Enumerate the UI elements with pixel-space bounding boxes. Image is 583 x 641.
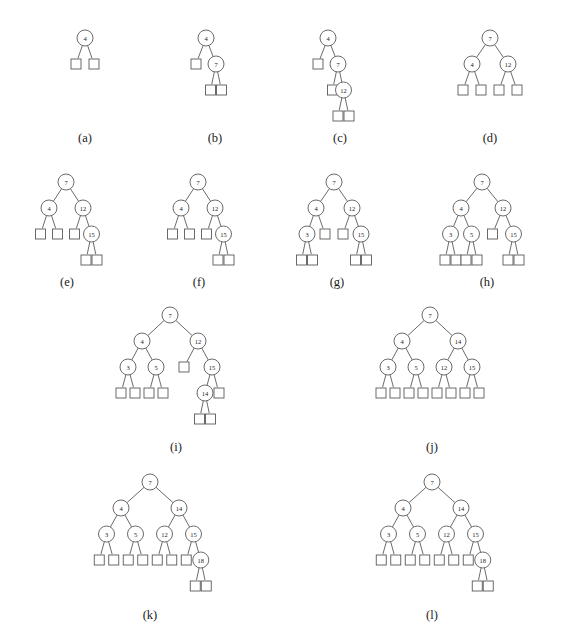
tree-edge [53, 189, 61, 202]
tree-node: 12 [436, 359, 452, 375]
tree-edge [198, 45, 203, 58]
tree-node-value: 18 [198, 557, 205, 564]
tree-edge [168, 515, 175, 527]
tree-leaf-node [488, 229, 498, 239]
tree-leaf-node [308, 255, 318, 265]
tree-edge [183, 216, 187, 229]
tree-edge [93, 242, 96, 254]
tree-edge [159, 542, 162, 555]
tree-node: 3 [380, 359, 396, 375]
tree-node: 15 [353, 226, 369, 242]
tree-node: 5 [128, 526, 144, 542]
tree-leaf-node [94, 555, 104, 565]
tree-node-value: 12 [349, 205, 356, 212]
tree-node: 4 [173, 200, 189, 216]
tree-node: 4 [77, 30, 93, 46]
tree-leaf-node [461, 255, 471, 265]
tree-node: 4 [41, 200, 57, 216]
tree-node: 5 [410, 526, 426, 542]
tree-node: 3 [443, 226, 459, 242]
tree-edge [130, 375, 133, 387]
tree-edge [484, 568, 487, 580]
tree-leaf-node [458, 85, 468, 95]
tree-node-value: 5 [414, 364, 417, 371]
tree-node-value: 5 [470, 231, 473, 238]
tree-node: 7 [190, 174, 206, 190]
tree-edge [391, 542, 394, 555]
tree-leaf-node [81, 255, 91, 265]
tree-edge [217, 216, 221, 227]
tree-node-value: 3 [387, 531, 390, 538]
tree-node: 15 [84, 226, 100, 242]
tree-diagram-i: 7435121514 [62, 305, 277, 435]
tree-leaf-node [297, 255, 307, 265]
tree-node-value: 15 [88, 231, 95, 238]
tree-edge [439, 375, 442, 387]
tree-node-value: 12 [441, 364, 448, 371]
tree-leaf-node [201, 581, 211, 591]
tree-leaf-node [202, 229, 212, 239]
tree-edge [390, 375, 393, 387]
tree-edge [473, 242, 476, 254]
tree-leaf-node [191, 59, 201, 69]
tree-node: 7 [326, 174, 342, 190]
tree-edge [509, 242, 512, 254]
tree-node: 14 [450, 333, 466, 349]
tree-node-value: 5 [416, 531, 419, 538]
tree-leaf-node [338, 229, 348, 239]
tree-node-value: 14 [176, 505, 183, 512]
tree-edge [495, 45, 504, 58]
tree-node: 12 [495, 200, 511, 216]
tree-node-value: 5 [134, 531, 137, 538]
tree-node: 7 [58, 174, 74, 190]
tree-edge [146, 348, 152, 360]
tree-edge [78, 46, 82, 59]
tree-edge [51, 216, 55, 229]
tree-edge [420, 542, 423, 555]
tree-leaf-node [109, 555, 119, 565]
tree-node: 4 [394, 333, 410, 349]
tree-node: 5 [148, 359, 164, 375]
tree-leaf-node [494, 85, 504, 95]
tree-node: 4 [453, 200, 469, 216]
tree-edge [151, 375, 154, 387]
tree-leaf-node [476, 85, 486, 95]
tree-node-value: 12 [80, 205, 87, 212]
tree-leaf-node [390, 388, 400, 398]
tree-leaf-node [451, 255, 461, 265]
tree-leaf-node [53, 229, 63, 239]
tree-diagram-g: 7431215 [272, 172, 402, 276]
tree-edge [453, 215, 458, 226]
tree-edge [167, 542, 170, 555]
tree-edge [345, 98, 348, 110]
tree-edge [110, 515, 117, 527]
tree-leaf-node [449, 555, 459, 565]
tree-node-value: 12 [443, 531, 450, 538]
tree-caption-e: (e) [60, 275, 74, 290]
tree-edge [321, 189, 330, 202]
tree-edge [438, 487, 455, 502]
tree-leaf-node [181, 555, 191, 565]
tree-edge [475, 72, 479, 85]
tree-svg-a: 4 [22, 28, 152, 124]
tree-leaf-node [144, 388, 154, 398]
tree-leaf-node [472, 581, 482, 591]
tree-leaf-node [214, 388, 224, 398]
tree-edge [148, 320, 164, 335]
tree-leaf-node [404, 388, 414, 398]
tree-edge [310, 216, 314, 227]
tree-edge [209, 45, 213, 56]
tree-node-value: 5 [154, 364, 157, 371]
tree-node: 12 [190, 333, 206, 349]
tree-edge [449, 542, 452, 555]
tree-edge [42, 216, 46, 229]
tree-edge [85, 216, 89, 227]
tree-node-value: 14 [202, 390, 209, 397]
tree-svg-b: 47 [160, 28, 280, 124]
tree-node: 4 [198, 30, 214, 46]
tree-node: 3 [381, 526, 397, 542]
tree-node: 14 [197, 385, 213, 401]
tree-node: 7 [424, 474, 440, 490]
tree-edge [418, 375, 421, 387]
tree-edge [412, 542, 415, 555]
